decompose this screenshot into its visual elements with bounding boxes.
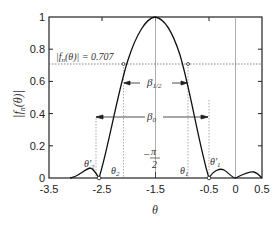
- beta-zero-label: β0: [146, 110, 156, 124]
- svg-text:−: −: [143, 148, 150, 160]
- null-marker-2: [97, 176, 101, 180]
- svg-text:π: π: [151, 146, 157, 157]
- beam-pattern-chart: 0 0.2 0.4 0.6 0.8 1 -3.5 -2.5 -1.5 -0.5 …: [0, 0, 275, 225]
- x-tick-0: 0: [232, 183, 238, 195]
- half-power-label: |fn(θ)| = 0.707: [56, 51, 115, 64]
- y-tick-0.2: 0.2: [30, 140, 45, 152]
- beta-half-label: β1/2: [146, 76, 162, 90]
- x-axis-label: θ: [152, 203, 158, 217]
- y-axis-label: |fn(θ)|: [11, 90, 27, 118]
- x-tick--0.5: -0.5: [200, 183, 219, 195]
- y-tick-0.4: 0.4: [30, 108, 45, 120]
- theta2-label: θ2: [111, 165, 120, 178]
- y-tick-1: 1: [39, 11, 45, 23]
- y-tick-0.8: 0.8: [30, 43, 45, 55]
- svg-text:2: 2: [152, 159, 157, 170]
- x-tick--1.5: -1.5: [146, 183, 165, 195]
- chart-container: 0 0.2 0.4 0.6 0.8 1 -3.5 -2.5 -1.5 -0.5 …: [0, 0, 275, 225]
- x-tick-0.5: 0.5: [254, 183, 269, 195]
- y-tick-0.6: 0.6: [30, 75, 45, 87]
- theta2-prime-label: θ′2: [84, 158, 95, 171]
- x-tick-labels: -3.5 -2.5 -1.5 -0.5 0 0.5: [40, 183, 270, 195]
- null-marker-1: [207, 176, 211, 180]
- x-tick--2.5: -2.5: [93, 183, 112, 195]
- half-power-marker-1: [187, 63, 190, 66]
- y-tick-labels: 0 0.2 0.4 0.6 0.8 1: [30, 11, 45, 184]
- x-tick--3.5: -3.5: [40, 183, 59, 195]
- theta1-label: θ1: [180, 165, 188, 178]
- pattern-curve: [70, 17, 262, 178]
- minus-pi-over-2-label: − π 2: [143, 146, 160, 170]
- theta1-prime-label: θ′1: [210, 156, 221, 169]
- half-power-marker-2: [122, 63, 125, 66]
- svg-text:|fn(θ)|: |fn(θ)|: [11, 90, 27, 118]
